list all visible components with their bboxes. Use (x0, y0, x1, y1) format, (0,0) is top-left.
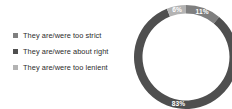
legend-swatch-icon-about-right (13, 49, 18, 54)
legend-label-too-strict: They are/were too strict (23, 31, 101, 40)
legend-label-about-right: They are/were about right (23, 47, 108, 56)
legend-swatch-icon-too-lenient (13, 65, 18, 70)
donut-slice-label: 11% (196, 8, 209, 15)
donut-chart-figure: They are/were too strict They are/were a… (0, 0, 232, 109)
legend-item-too-strict[interactable]: They are/were too strict (13, 31, 131, 40)
legend-item-too-lenient[interactable]: They are/were too lenient (13, 63, 131, 72)
donut-slice-label: 6% (172, 6, 182, 13)
legend-item-about-right[interactable]: They are/were about right (13, 47, 131, 56)
donut-slice-labels: 11%83%6% (172, 6, 209, 107)
chart-legend: They are/were too strict They are/were a… (13, 31, 131, 72)
legend-label-too-lenient: They are/were too lenient (23, 63, 108, 72)
donut-slice[interactable] (134, 9, 232, 109)
donut-svg: 11%83%6% (134, 0, 232, 109)
donut-slice-label: 83% (172, 100, 186, 107)
legend-swatch-icon-too-strict (13, 33, 18, 38)
donut-graphic: 11%83%6% (134, 0, 232, 109)
donut-slices (134, 5, 232, 109)
